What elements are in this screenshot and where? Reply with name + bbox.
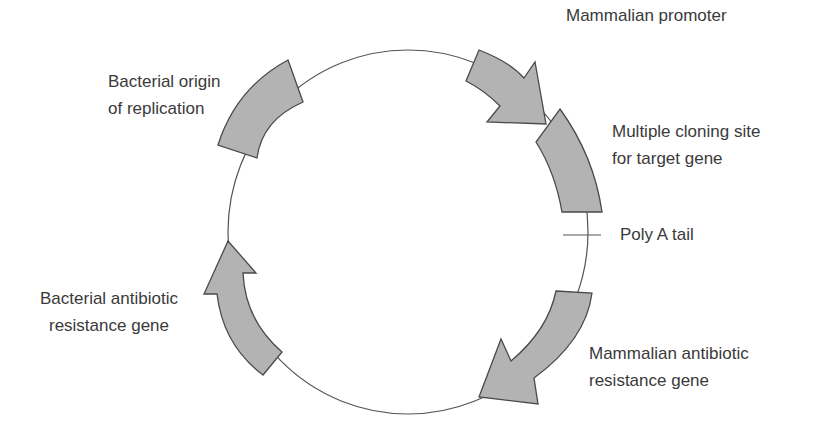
label-multiple-cloning-site: Multiple cloning site for target gene [612, 118, 760, 172]
label-line: resistance gene [589, 367, 749, 394]
bacterial-origin-block [218, 60, 303, 158]
label-bacterial-antibiotic: Bacterial antibiotic resistance gene [40, 285, 178, 339]
label-line: Bacterial origin [108, 68, 220, 95]
label-line: Mammalian promoter [566, 2, 727, 29]
label-line: Mammalian antibiotic [589, 340, 749, 367]
label-poly-a-tail: Poly A tail [620, 221, 694, 248]
bacterial-antibiotic-arrow [204, 241, 282, 375]
mammalian-antibiotic-arrow [479, 291, 592, 404]
label-mammalian-promoter: Mammalian promoter [566, 2, 727, 29]
label-line: Bacterial antibiotic [40, 285, 178, 312]
label-bacterial-origin: Bacterial origin of replication [108, 68, 220, 122]
label-line: for target gene [612, 145, 760, 172]
label-line: Poly A tail [620, 221, 694, 248]
label-mammalian-antibiotic: Mammalian antibiotic resistance gene [589, 340, 749, 394]
mammalian-promoter-arrow [466, 50, 546, 124]
label-line: resistance gene [40, 312, 178, 339]
label-line: Multiple cloning site [612, 118, 760, 145]
label-line: of replication [108, 95, 220, 122]
